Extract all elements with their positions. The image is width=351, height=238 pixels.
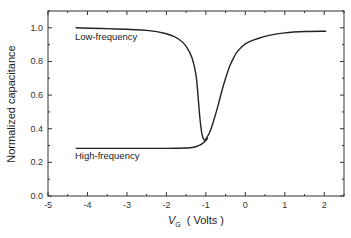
x-tick-label: -2 [162,200,170,210]
x-tick-label: 2 [322,200,327,210]
x-tick-label: 0 [243,200,248,210]
high-frequency-annotation: High-frequency [75,150,140,161]
y-axis-title: Normalized capacitance [5,45,17,162]
y-tick-label: 1.0 [30,23,43,33]
x-axis-title: VG( Volts ) [168,214,224,228]
capacitance-voltage-chart: -5-4-3-2-10120.00.20.40.60.81.0 Low-freq… [0,0,351,238]
low-frequency-curve [76,28,327,140]
x-tick-label: -1 [202,200,210,210]
x-tick-label: -4 [83,200,91,210]
y-tick-label: 0.2 [30,157,43,167]
x-tick-label: -3 [123,200,131,210]
y-tick-label: 0.4 [30,124,43,134]
high-frequency-curve [76,138,208,148]
low-frequency-annotation: Low-frequency [75,31,138,42]
y-tick-label: 0.0 [30,191,43,201]
y-tick-label: 0.8 [30,56,43,66]
x-tick-label: -5 [44,200,52,210]
data-curves [76,28,327,149]
y-tick-label: 0.6 [30,90,43,100]
x-tick-label: 1 [282,200,287,210]
x-axis-subscript: G [175,221,180,228]
x-axis-unit: ( Volts ) [187,214,224,226]
axis-tick-labels: -5-4-3-2-10120.00.20.40.60.81.0 [30,23,326,210]
